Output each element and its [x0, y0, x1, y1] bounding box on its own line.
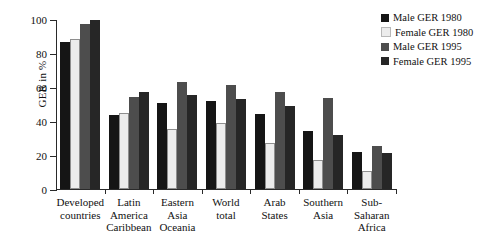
y-tick [50, 156, 56, 157]
legend-item-female-ger-1980: Female GER 1980 [381, 26, 473, 39]
bar [323, 98, 333, 189]
legend-label: Female GER 1980 [395, 27, 473, 38]
x-category-label: Sub-Saharan Africa [347, 196, 396, 234]
bar-group [60, 19, 100, 189]
bar-group [206, 19, 246, 189]
legend-item-female-ger-1995: Female GER 1995 [381, 55, 473, 68]
bar [167, 129, 177, 189]
legend-item-male-ger-1980: Male GER 1980 [381, 11, 473, 24]
plot-area: 020406080100 [56, 20, 396, 190]
x-tick [347, 190, 348, 194]
chart-legend: Male GER 1980 Female GER 1980 Male GER 1… [381, 11, 473, 68]
bar [285, 106, 295, 189]
y-tick [50, 122, 56, 123]
legend-swatch-icon [381, 57, 389, 65]
bar [313, 160, 323, 189]
x-tick [105, 190, 106, 194]
y-tick-label: 40 [36, 116, 47, 128]
x-category-label: Eastern Asia Oceania [153, 196, 202, 234]
bar [119, 113, 129, 189]
bar [157, 103, 167, 189]
legend-label: Male GER 1980 [393, 12, 462, 23]
bar [206, 101, 216, 189]
legend-item-male-ger-1995: Male GER 1995 [381, 40, 473, 53]
legend-swatch-icon [381, 14, 389, 22]
bar [275, 92, 285, 189]
y-tick [50, 190, 56, 191]
bar [236, 99, 246, 189]
legend-label: Male GER 1995 [393, 41, 462, 52]
y-tick-label: 80 [36, 48, 47, 60]
y-axis-line [56, 20, 57, 191]
y-tick [50, 20, 56, 21]
bar-group [303, 19, 343, 189]
y-tick [50, 88, 56, 89]
x-tick [153, 190, 154, 194]
bar-chart: GER in % 020406080100 Developed countrie… [0, 0, 483, 240]
bar [129, 97, 139, 189]
x-category-label: Southern Asia [299, 196, 348, 221]
bar [255, 114, 265, 189]
legend-swatch-icon [381, 27, 391, 37]
y-tick-label: 60 [36, 82, 47, 94]
bar [177, 82, 187, 189]
x-tick [202, 190, 203, 194]
y-tick-label: 100 [31, 14, 48, 26]
bar [382, 153, 392, 189]
legend-label: Female GER 1995 [393, 56, 471, 67]
bar [90, 20, 100, 189]
bar [109, 115, 119, 189]
bar [70, 39, 80, 189]
x-tick [396, 190, 397, 194]
bar [333, 135, 343, 189]
x-category-label: Developed countries [56, 196, 105, 221]
x-tick [250, 190, 251, 194]
x-category-label: World total [202, 196, 251, 221]
bar [362, 171, 372, 189]
y-tick-label: 0 [42, 184, 48, 196]
legend-swatch-icon [381, 43, 389, 51]
x-tick [299, 190, 300, 194]
bar [226, 85, 236, 189]
bar [187, 95, 197, 189]
bar [139, 92, 149, 189]
bar [265, 143, 275, 189]
bar-group [157, 19, 197, 189]
bar [352, 152, 362, 189]
x-category-label: Latin America Caribbean [105, 196, 154, 234]
y-tick [50, 54, 56, 55]
bar [60, 42, 70, 189]
bar-group [109, 19, 149, 189]
bar-group [255, 19, 295, 189]
bar [216, 123, 226, 189]
bar [372, 146, 382, 189]
bar [303, 131, 313, 189]
x-axis-line [56, 189, 397, 190]
y-tick-label: 20 [36, 150, 47, 162]
x-category-label: Arab States [250, 196, 299, 221]
bar [80, 24, 90, 189]
